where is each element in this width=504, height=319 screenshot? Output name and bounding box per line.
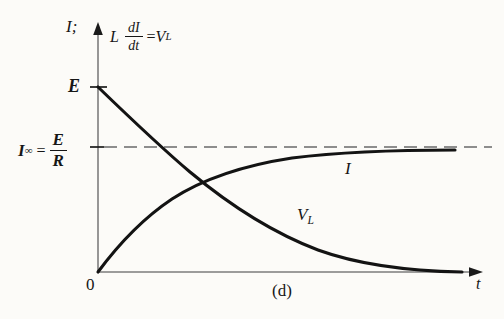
equation-numerator: dI — [125, 20, 143, 36]
equation-fraction: dI dt — [125, 20, 143, 53]
curve-label-voltage-symbol: V — [297, 205, 307, 224]
y-tick-label-e: E — [68, 77, 80, 95]
figure-rl-transient-response: I; L dI dt = V L E I ∞ = E R I VL 0 t (d… — [0, 0, 504, 319]
i-infinity-numerator: E — [50, 131, 67, 150]
y-axis-title: I; — [66, 18, 77, 35]
curve-label-current: I — [345, 160, 351, 177]
equation-inductor-voltage: L dI dt = V L — [110, 20, 171, 53]
i-infinity-fraction: E R — [50, 131, 67, 171]
equation-denominator: dt — [125, 37, 142, 53]
equation-result-symbol: V — [156, 29, 166, 45]
i-infinity-denominator: R — [50, 151, 67, 170]
i-infinity-symbol: I — [18, 142, 25, 159]
equation-equals-sign: = — [147, 29, 156, 45]
y-axis-arrowhead — [93, 22, 103, 35]
equation-symbol-l: L — [110, 29, 119, 45]
curve-label-voltage-subscript: L — [307, 214, 313, 227]
origin-label: 0 — [86, 276, 95, 293]
plot-canvas — [0, 0, 504, 319]
x-axis-title: t — [476, 276, 480, 292]
equation-result-subscript: L — [165, 31, 171, 42]
curve-current-i — [98, 150, 455, 272]
figure-caption: (d) — [272, 282, 292, 299]
i-infinity-equals-sign: = — [36, 143, 45, 159]
curve-label-voltage: VL — [297, 206, 314, 226]
i-infinity-subscript: ∞ — [25, 145, 33, 156]
curve-voltage-vl — [98, 87, 462, 272]
y-tick-label-i-infinity: I ∞ = E R — [18, 131, 67, 171]
